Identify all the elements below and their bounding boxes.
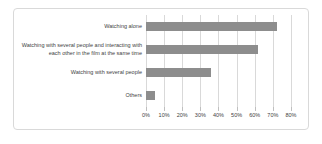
category-axis: Watching alone Watching with several peo… [14,15,146,107]
bar-row [146,15,306,38]
bar-watching-alone [146,22,277,31]
x-axis-ticks [146,107,292,111]
bar-watching-interacting [146,45,258,54]
category-label-watching-alone: Watching alone [14,15,146,38]
tick-label-50: 50% [231,112,242,118]
bar-row [146,38,306,61]
tick-label-30: 30% [195,112,206,118]
category-label-watching-several: Watching with several people [14,61,146,84]
category-label-watching-interacting: Watching with several people and interac… [14,38,146,61]
tick-label-0: 0% [142,112,150,118]
tick-label-80: 80% [285,112,296,118]
bar-row [146,84,306,107]
category-label-others: Others [14,84,146,107]
chart-body: Watching alone Watching with several peo… [14,15,308,122]
tick-label-10: 10% [159,112,170,118]
tick-label-20: 20% [177,112,188,118]
bar-chart-card: Watching alone Watching with several peo… [13,8,309,130]
bar-others [146,91,155,100]
tick-label-60: 60% [249,112,260,118]
tick-label-70: 70% [267,112,278,118]
x-axis-labels: 0% 10% 20% 30% 40% 50% 60% 70% 80% [146,112,306,122]
plot-area [146,15,306,107]
bar-watching-several [146,68,211,77]
bar-row [146,61,306,84]
x-axis: 0% 10% 20% 30% 40% 50% 60% 70% 80% [146,107,306,122]
tick-label-40: 40% [213,112,224,118]
